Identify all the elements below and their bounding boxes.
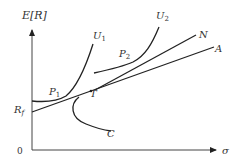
label-n: N: [198, 29, 209, 40]
label-p1: P1: [48, 86, 60, 99]
label-u2: U2: [156, 10, 169, 23]
curve-u2: [94, 27, 159, 73]
label-p2: P2: [118, 48, 130, 61]
origin-label: 0: [17, 146, 23, 156]
y-axis-label: E[R]: [21, 9, 48, 22]
label-rf: Rf: [13, 104, 26, 117]
label-c: C: [107, 128, 115, 139]
label-u1: U1: [93, 30, 106, 43]
x-axis-label: σ: [222, 145, 230, 156]
curve-c: [73, 97, 111, 131]
label-a: A: [214, 43, 222, 54]
tangency-point-t: [90, 90, 93, 93]
line-n: [95, 35, 196, 90]
efficient-frontier-diagram: E[R] σ 0 U1 U2 N A P1 P2 T C Rf: [0, 0, 239, 165]
